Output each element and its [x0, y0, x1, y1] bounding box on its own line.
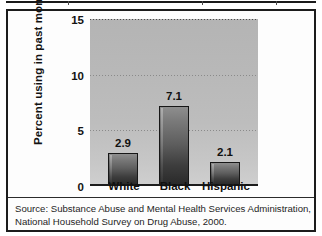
source-line-2: National Household Survey on Drug Abuse,… [15, 215, 307, 228]
top-rule-tick [276, 1, 277, 5]
figure-screenshot: Percent using in past month 0 5 10 15 2.… [0, 0, 322, 236]
gridline-15 [90, 19, 258, 20]
figure-box: Percent using in past month 0 5 10 15 2.… [6, 9, 316, 232]
plot-area: 2.9 7.1 2.1 [90, 19, 258, 186]
y-tick-label-15: 15 [64, 15, 84, 27]
x-tick-label-hispanic: Hispanic [195, 181, 257, 193]
bar-black [159, 106, 189, 185]
source-line-1: Source: Substance Abuse and Mental Healt… [15, 202, 307, 215]
bar-value-white: 2.9 [108, 138, 138, 150]
page-top-rule [6, 1, 316, 3]
bar-value-black: 7.1 [159, 91, 189, 103]
y-tick-label-0: 0 [64, 182, 84, 194]
y-axis-tick-labels: 0 5 10 15 [60, 11, 84, 197]
y-tick-label-5: 5 [64, 126, 84, 138]
y-axis-title: Percent using in past month [32, 0, 44, 145]
bar-chart: Percent using in past month 0 5 10 15 2.… [8, 11, 314, 197]
gridline-10 [90, 75, 258, 76]
source-note: Source: Substance Abuse and Mental Healt… [15, 202, 307, 229]
bar-value-hispanic: 2.1 [210, 147, 240, 159]
top-rule-tick [68, 1, 69, 5]
top-rule-tick [202, 1, 203, 5]
x-tick-label-white: White [96, 181, 152, 193]
source-separator [8, 197, 314, 198]
y-tick-label-10: 10 [64, 71, 84, 83]
